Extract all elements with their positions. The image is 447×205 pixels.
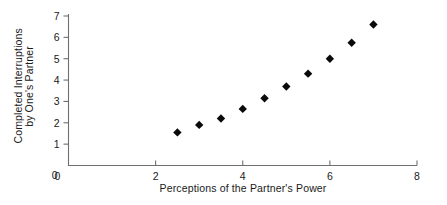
data-point-marker: [369, 20, 377, 28]
y-axis-ticks: 01234567: [52, 10, 69, 181]
plot-area: 01234567 02468: [0, 0, 447, 205]
data-point-series: [173, 20, 377, 136]
data-point-marker: [195, 121, 203, 129]
y-tick-label: 5: [54, 53, 60, 65]
axis-lines: [69, 14, 418, 166]
data-point-marker: [326, 55, 334, 63]
x-tick-label: 8: [414, 170, 420, 182]
y-tick-label: 1: [54, 138, 60, 150]
data-point-marker: [347, 38, 355, 46]
x-axis-title: Perceptions of the Partner's Power: [68, 182, 418, 194]
x-tick-label: 6: [327, 170, 333, 182]
x-tick-label: 0: [55, 170, 61, 182]
data-point-marker: [304, 69, 312, 77]
y-tick-label: 3: [54, 95, 60, 107]
data-point-marker: [282, 82, 290, 90]
scatter-plot-figure: Completed Interruptions by One's Partner…: [0, 0, 447, 205]
y-tick-label: 2: [54, 117, 60, 129]
data-point-marker: [239, 105, 247, 113]
data-point-marker: [260, 94, 268, 102]
y-tick-label: 7: [54, 10, 60, 22]
x-tick-label: 4: [240, 170, 246, 182]
y-tick-label: 4: [54, 74, 60, 86]
y-tick-label: 6: [54, 31, 60, 43]
x-tick-label: 2: [153, 170, 159, 182]
data-point-marker: [173, 128, 181, 136]
x-axis-ticks: 02468: [55, 161, 421, 182]
axis-spines: [69, 14, 418, 166]
data-point-marker: [217, 114, 225, 122]
